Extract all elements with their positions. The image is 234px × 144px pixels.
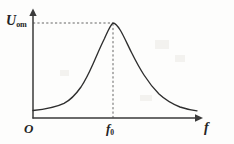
origin-label: O bbox=[24, 122, 33, 135]
x-axis-arrow-icon bbox=[195, 114, 203, 122]
y-axis-label: Uom bbox=[6, 14, 27, 29]
x-axis-tick-label-f0: f0 bbox=[106, 122, 114, 136]
resonance-plot-canvas bbox=[0, 0, 234, 144]
resonance-curve-figure: Uom O f0 f bbox=[0, 0, 234, 144]
y-axis-label-symbol: U bbox=[6, 13, 16, 28]
tick-label-subscript: 0 bbox=[110, 128, 114, 137]
resonance-curve-path bbox=[33, 23, 197, 111]
y-axis-arrow-icon bbox=[29, 9, 36, 17]
x-axis-label: f bbox=[204, 121, 209, 135]
y-axis-label-subscript: om bbox=[16, 20, 27, 29]
